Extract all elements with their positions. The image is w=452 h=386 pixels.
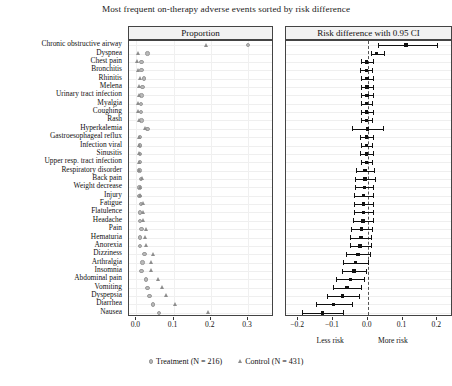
gridline-row [129, 95, 272, 96]
gridline-row [129, 146, 272, 147]
gridline-vertical [174, 41, 175, 315]
axis-tick-label: 0.2 [205, 320, 215, 329]
risk-difference-estimate [358, 244, 361, 247]
legend-item: Control (N = 431) [238, 356, 303, 366]
confidence-interval-cap [350, 235, 351, 240]
confidence-interval-cap [373, 135, 374, 140]
confidence-interval-cap [346, 252, 347, 257]
confidence-interval-cap [361, 110, 362, 115]
confidence-interval-cap [373, 193, 374, 198]
confidence-interval-cap [350, 243, 351, 248]
confidence-interval-cap [373, 185, 374, 190]
control-point [136, 68, 140, 72]
panel-header-proportion: Proportion [128, 26, 273, 40]
risk-difference-estimate [365, 135, 368, 138]
risk-difference-estimate [356, 253, 359, 256]
gridline-row [129, 171, 272, 172]
legend-item: Treatment (N = 216) [149, 356, 223, 366]
gridline-row [129, 104, 272, 105]
control-point [160, 285, 164, 289]
gridline-row [129, 204, 272, 205]
risk-difference-estimate [365, 77, 368, 80]
category-label: Nausea [100, 308, 122, 316]
treatment-point [142, 252, 146, 256]
risk-difference-estimate [362, 194, 365, 197]
confidence-interval-cap [373, 85, 374, 90]
legend-label: Control (N = 431) [245, 357, 303, 366]
axis-tick-label: 0.2 [432, 320, 442, 329]
risk-difference-estimate [354, 261, 357, 264]
gridline-row [129, 62, 272, 63]
gridline-row [129, 288, 272, 289]
risk-difference-estimate [345, 286, 348, 289]
gridline-row [129, 79, 272, 80]
gridline-row [129, 112, 272, 113]
risk-difference-estimate [359, 236, 362, 239]
confidence-interval-cap [343, 260, 344, 265]
gridline-row [129, 54, 272, 55]
confidence-interval-cap [371, 51, 372, 56]
risk-difference-estimate [363, 169, 366, 172]
confidence-interval-cap [361, 118, 362, 123]
confidence-interval-cap [366, 269, 367, 274]
confidence-interval-cap [384, 51, 385, 56]
gridline-vertical [248, 41, 249, 315]
confidence-interval-cap [336, 277, 337, 282]
treatment-marker-icon [149, 359, 153, 363]
control-point [144, 243, 148, 247]
treatment-point [138, 235, 142, 239]
gridline-row [129, 187, 272, 188]
control-point [137, 168, 141, 172]
confidence-interval-cap [360, 135, 361, 140]
treatment-point [151, 302, 155, 306]
treatment-point [140, 260, 144, 264]
treatment-point [246, 43, 250, 47]
control-point [140, 176, 144, 180]
risk-difference-estimate [360, 227, 363, 230]
risk-difference-estimate [365, 102, 368, 105]
axis-tick-label: −0.2 [290, 320, 304, 329]
confidence-interval-cap [355, 177, 356, 182]
gridline-vertical [211, 41, 212, 315]
treatment-point [138, 244, 142, 248]
control-point [173, 302, 177, 306]
control-point [151, 252, 155, 256]
control-point [143, 126, 147, 130]
confidence-interval-cap [302, 310, 303, 315]
confidence-interval-cap [374, 168, 375, 173]
axis-tick-label: −0.1 [325, 320, 339, 329]
confidence-interval-cap [354, 210, 355, 215]
control-point [144, 227, 148, 231]
confidence-interval-cap [333, 285, 334, 290]
gridline-vertical [136, 41, 137, 315]
confidence-interval-cap [378, 43, 379, 48]
confidence-interval-cap [370, 252, 371, 257]
confidence-interval-cap [364, 277, 365, 282]
treatment-point [145, 286, 149, 290]
risk-difference-estimate [321, 311, 324, 314]
axis-tick-label: 0.0 [131, 320, 141, 329]
control-point [137, 135, 141, 139]
axis-tick-label: 0.0 [362, 320, 372, 329]
control-point [143, 235, 147, 239]
gridline-row [129, 70, 272, 71]
control-point [164, 293, 168, 297]
confidence-interval-cap [361, 101, 362, 106]
gridline-row [129, 279, 272, 280]
risk-difference-estimate [366, 127, 369, 130]
gridline-row [129, 45, 272, 46]
risk-difference-estimate [365, 60, 368, 63]
risk-difference-estimate [363, 186, 366, 189]
gridline-row [129, 87, 272, 88]
control-point [137, 143, 141, 147]
category-label: Pain [109, 224, 122, 232]
confidence-interval-cap [352, 302, 353, 307]
confidence-interval-cap [371, 235, 372, 240]
control-point [138, 76, 142, 80]
control-point [137, 151, 141, 155]
axis-sublabel-less-risk: Less risk [317, 336, 344, 345]
confidence-interval-cap [327, 294, 328, 299]
category-label: Chronic obstructive airway [42, 40, 122, 48]
control-point [149, 268, 153, 272]
axis-sublabel-more-risk: More risk [378, 336, 408, 345]
